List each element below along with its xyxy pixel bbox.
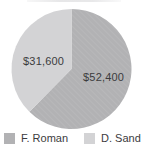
legend-item-f-roman: F. Roman bbox=[4, 132, 68, 145]
slice-label-d-sand: $31,600 bbox=[23, 56, 64, 67]
legend-item-d-sand: D. Sand bbox=[84, 132, 141, 145]
slice-label-f-roman: $52,400 bbox=[83, 72, 124, 83]
legend-label-d-sand: D. Sand bbox=[101, 132, 141, 145]
legend-swatch-f-roman bbox=[4, 133, 15, 144]
legend-label-f-roman: F. Roman bbox=[21, 132, 68, 145]
pie-chart: $31,600 $52,400 F. Roman D. Sand bbox=[0, 0, 143, 147]
legend-swatch-d-sand bbox=[84, 133, 95, 144]
legend: F. Roman D. Sand bbox=[0, 132, 143, 145]
